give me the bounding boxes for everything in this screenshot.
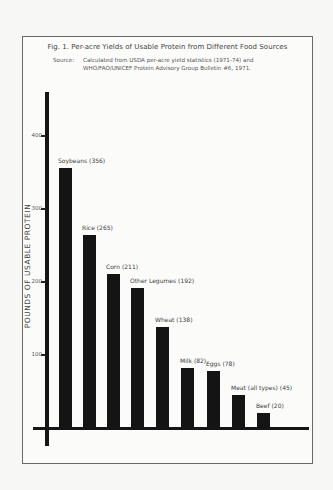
source-line-1: Calculated from USDA per-acre yield stat… (83, 56, 254, 64)
bar-label: Eggs (78) (206, 360, 235, 367)
bar-label: Other Legumes (192) (130, 277, 194, 284)
source-line-2: WHO/FAO/UNICEF Protein Advisory Group Bu… (83, 64, 254, 72)
bar (107, 274, 120, 428)
bar-label: Milk (82) (180, 357, 206, 364)
bar-label: Soybeans (356) (58, 157, 105, 164)
y-tick-label: 400 (26, 132, 42, 138)
bar (207, 371, 220, 428)
bar (131, 288, 144, 428)
bar (257, 413, 270, 428)
bar-label: Corn (211) (106, 263, 138, 270)
y-tick-label: 300 (26, 205, 42, 211)
bar (232, 395, 245, 428)
bar (156, 327, 169, 428)
y-tick-label: 200 (26, 278, 42, 284)
bar-label: Beef (20) (256, 402, 284, 409)
bar-label: Wheat (138) (155, 316, 193, 323)
y-tick-label: 100 (26, 351, 42, 357)
source-label: Source: (53, 56, 74, 64)
bar-label: Meat (all types) (45) (231, 384, 292, 391)
y-axis-title: POUNDS OF USABLE PROTEIN (23, 204, 32, 329)
chart-title: Fig. 1. Per-acre Yields of Usable Protei… (22, 43, 313, 51)
chart-source: Source: Calculated from USDA per-acre yi… (83, 56, 254, 72)
bar (181, 368, 194, 428)
bar-label: Rice (265) (82, 224, 113, 231)
bar (83, 235, 96, 428)
bar (59, 168, 72, 428)
y-axis (45, 92, 49, 446)
